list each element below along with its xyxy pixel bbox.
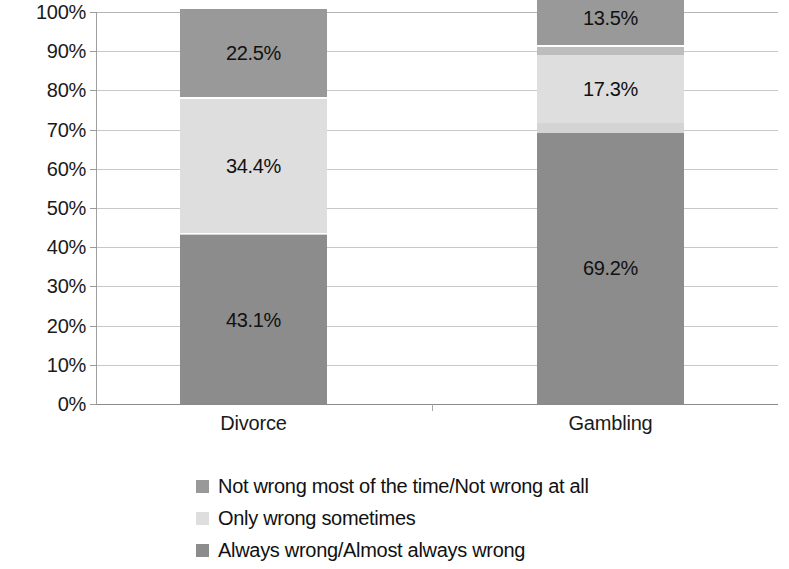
bar-segment[interactable]: 22.5%: [180, 9, 327, 97]
bar-divorce[interactable]: 43.1%34.4%22.5%: [180, 12, 327, 404]
legend-swatch-icon: [196, 480, 209, 493]
bar-segment-value-label: 43.1%: [180, 308, 327, 331]
y-axis-tick-mark: [90, 90, 97, 91]
legend-item[interactable]: Only wrong sometimes: [196, 502, 716, 534]
legend-swatch-icon: [196, 512, 209, 525]
y-axis-tick-label: 30%: [2, 276, 86, 296]
bar-segment-value-label: 22.5%: [180, 41, 327, 64]
y-axis-tick-label: 50%: [2, 198, 86, 218]
bar-segment[interactable]: [537, 45, 684, 55]
x-axis-category-label: Divorce: [160, 412, 347, 435]
bar-segment-value-label: 13.5%: [537, 7, 684, 30]
y-axis-tick-label: 60%: [2, 159, 86, 179]
legend-label: Not wrong most of the time/Not wrong at …: [218, 475, 589, 498]
y-axis-tick-label: 10%: [2, 355, 86, 375]
bar-segment-value-label: 34.4%: [180, 155, 327, 178]
y-axis-labels: 100%90%80%70%60%50%40%30%20%10%0%: [0, 12, 86, 404]
y-axis-tick-mark: [90, 365, 97, 366]
bar-segment[interactable]: 13.5%: [537, 0, 684, 45]
x-axis-labels: DivorceGambling: [96, 412, 778, 442]
legend-label: Always wrong/Almost always wrong: [218, 539, 525, 562]
bar-segment-value-label: 17.3%: [537, 77, 684, 100]
y-axis-tick-label: 20%: [2, 316, 86, 336]
x-axis-tick-mark: [432, 404, 433, 411]
legend-swatch-icon: [196, 544, 209, 557]
y-axis-tick-mark: [90, 169, 97, 170]
y-axis-tick-label: 100%: [2, 2, 86, 22]
x-axis-category-label: Gambling: [517, 412, 704, 435]
bar-segment[interactable]: 17.3%: [537, 55, 684, 123]
y-axis-tick-label: 70%: [2, 120, 86, 140]
bar-segment[interactable]: [537, 123, 684, 133]
y-axis-tick-label: 40%: [2, 237, 86, 257]
y-axis-tick-mark: [90, 404, 97, 405]
bar-segment[interactable]: 43.1%: [180, 235, 327, 404]
legend-label: Only wrong sometimes: [218, 507, 415, 530]
legend-item[interactable]: Not wrong most of the time/Not wrong at …: [196, 470, 716, 502]
y-axis-tick-mark: [90, 130, 97, 131]
y-axis-tick-mark: [90, 12, 97, 13]
gridline: [96, 404, 778, 405]
y-axis-tick-label: 80%: [2, 80, 86, 100]
plot-area: 43.1%34.4%22.5%69.2%17.3%13.5%: [96, 12, 778, 404]
bar-segment[interactable]: 69.2%: [537, 133, 684, 404]
bar-segment-value-label: 69.2%: [537, 257, 684, 280]
y-axis-tick-mark: [90, 247, 97, 248]
y-axis-tick-label: 90%: [2, 41, 86, 61]
stacked-bar-chart-figure: 100%90%80%70%60%50%40%30%20%10%0% 43.1%3…: [0, 0, 789, 569]
bar-gambling[interactable]: 69.2%17.3%13.5%: [537, 12, 684, 404]
y-axis-tick-mark: [90, 326, 97, 327]
y-axis-tick-mark: [90, 208, 97, 209]
y-axis-tick-mark: [90, 51, 97, 52]
y-axis-tick-mark: [90, 286, 97, 287]
chart-legend: Not wrong most of the time/Not wrong at …: [196, 470, 716, 566]
bar-segment[interactable]: [180, 234, 327, 236]
bar-segment[interactable]: 34.4%: [180, 99, 327, 234]
y-axis-tick-label: 0%: [2, 394, 86, 414]
legend-item[interactable]: Always wrong/Almost always wrong: [196, 534, 716, 566]
